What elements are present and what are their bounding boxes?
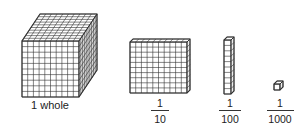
hundredth-fraction: 1 100 (215, 97, 245, 125)
tenth-flat (130, 39, 190, 93)
whole-cube (22, 14, 97, 97)
whole-label: 1 whole (20, 99, 80, 111)
tenth-numerator: 1 (148, 97, 172, 110)
base-ten-diagram: 1 whole 1 10 1 100 1 1000 (0, 0, 307, 128)
tenth-denominator: 10 (148, 111, 172, 125)
thousandth-numerator: 1 (262, 97, 298, 110)
thousandth-unit-cube (274, 81, 283, 90)
hundredth-rod (224, 37, 234, 94)
hundredth-numerator: 1 (215, 97, 245, 110)
thousandth-denominator: 1000 (262, 111, 298, 125)
hundredth-denominator: 100 (215, 111, 245, 125)
tenth-fraction: 1 10 (148, 97, 172, 125)
thousandth-fraction: 1 1000 (262, 97, 298, 125)
